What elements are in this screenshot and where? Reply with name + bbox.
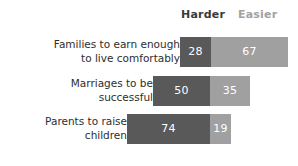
bar-segment-easier-parents[interactable]: 19 xyxy=(210,114,231,144)
legend-item-harder: Harder xyxy=(181,8,225,22)
bar-value-easier-families: 67 xyxy=(242,46,256,58)
bar-segment-harder-parents[interactable]: 74 xyxy=(127,114,210,144)
bar-value-harder-parents: 74 xyxy=(161,123,175,135)
bar-segment-harder-families[interactable]: 28 xyxy=(180,37,211,67)
bar-segment-harder-marriages[interactable]: 50 xyxy=(153,76,210,106)
chart-row-families: Families to earn enough to live comforta… xyxy=(0,36,298,68)
category-label-families: Families to earn enough to live comforta… xyxy=(0,37,180,65)
chart-row-parents: Parents to raise children 74 19 xyxy=(0,113,298,145)
bar-value-easier-parents: 19 xyxy=(213,123,227,135)
legend-item-easier: Easier xyxy=(238,8,277,22)
category-label-parents: Parents to raise children xyxy=(0,114,127,142)
chart-row-marriages: Marriages to be successful 50 35 xyxy=(0,75,298,107)
bar-value-harder-marriages: 50 xyxy=(174,85,188,97)
chart-legend: Harder Easier xyxy=(0,8,298,26)
bar-group-marriages: 50 35 xyxy=(153,76,250,106)
bar-segment-easier-marriages[interactable]: 35 xyxy=(210,76,250,106)
bar-value-easier-marriages: 35 xyxy=(223,85,237,97)
bar-group-families: 28 67 xyxy=(180,37,288,67)
category-label-marriages: Marriages to be successful xyxy=(0,76,153,104)
bar-group-parents: 74 19 xyxy=(127,114,231,144)
bar-value-harder-families: 28 xyxy=(188,46,202,58)
bar-segment-easier-families[interactable]: 67 xyxy=(211,37,288,67)
stacked-bar-chart: Harder Easier Families to earn enough to… xyxy=(0,0,298,166)
